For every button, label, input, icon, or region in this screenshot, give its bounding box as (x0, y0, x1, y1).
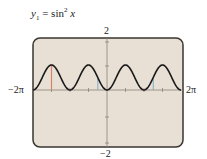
y-min-label: −2 (100, 148, 111, 159)
y-max-label: 2 (104, 25, 109, 36)
x-min-label: −2π (8, 84, 24, 95)
x-max-label: 2π (186, 84, 196, 95)
graph-screen (0, 0, 207, 159)
